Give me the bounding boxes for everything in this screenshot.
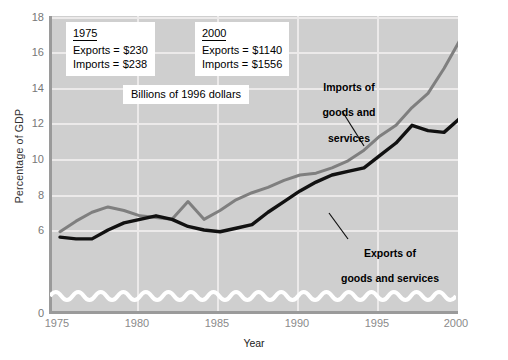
y-tick-14: 14 xyxy=(16,83,44,94)
y-tick-16: 16 xyxy=(16,47,44,58)
exports-callout-line2: goods and services xyxy=(320,272,460,285)
note-1975-exports-value: $230 xyxy=(123,44,147,56)
x-tick-1985: 1985 xyxy=(187,318,247,329)
y-axis-tick-labels: 18 16 14 12 10 8 6 0 xyxy=(0,0,44,360)
imports-callout: Imports of goods and services xyxy=(301,68,397,158)
imports-callout-line1: Imports of xyxy=(301,81,397,94)
x-tick-1990: 1990 xyxy=(267,318,327,329)
note-box-1975: 1975 Exports = $230 Imports = $238 xyxy=(66,22,155,76)
y-tick-8: 8 xyxy=(16,190,44,201)
units-caption: Billions of 1996 dollars xyxy=(123,85,249,104)
note-1975-imports-label: Imports xyxy=(73,58,110,70)
chart-root: Percentage of GDP 18 16 14 12 10 8 6 0 xyxy=(0,0,508,360)
note-2000-exports-label: Exports xyxy=(202,44,239,56)
note-2000-exports-eq: = xyxy=(242,44,249,56)
y-tick-6: 6 xyxy=(16,225,44,236)
y-tick-10: 10 xyxy=(16,154,44,165)
note-1975-imports-value: $238 xyxy=(123,58,147,70)
note-1975-exports-row: Exports = $230 xyxy=(73,43,148,57)
note-2000-imports-row: Imports = $1556 xyxy=(202,57,282,71)
exports-callout: Exports of goods and services xyxy=(320,234,460,298)
imports-callout-line2: goods and xyxy=(301,106,397,119)
note-1975-imports-eq: = xyxy=(113,58,120,70)
note-2000-year: 2000 xyxy=(202,26,226,41)
note-1975-exports-eq: = xyxy=(113,44,120,56)
note-2000-imports-label: Imports xyxy=(202,58,239,70)
imports-callout-line3: services xyxy=(301,132,397,145)
exports-callout-line1: Exports of xyxy=(320,247,460,260)
y-tick-18: 18 xyxy=(16,12,44,23)
y-tick-12: 12 xyxy=(16,118,44,129)
note-2000-exports-row: Exports = $1140 xyxy=(202,43,282,57)
note-box-2000: 2000 Exports = $1140 Imports = $1556 xyxy=(195,22,289,76)
x-tick-1975: 1975 xyxy=(27,318,87,329)
note-1975-year: 1975 xyxy=(73,26,97,41)
note-2000-imports-value: $1556 xyxy=(252,58,283,70)
x-tick-2000: 2000 xyxy=(426,318,486,329)
x-tick-1995: 1995 xyxy=(347,318,407,329)
x-tick-1980: 1980 xyxy=(107,318,167,329)
note-1975-exports-label: Exports xyxy=(73,44,110,56)
note-1975-imports-row: Imports = $238 xyxy=(73,57,148,71)
x-axis-title: Year xyxy=(0,337,508,349)
note-2000-imports-eq: = xyxy=(242,58,249,70)
note-2000-exports-value: $1140 xyxy=(252,44,282,56)
